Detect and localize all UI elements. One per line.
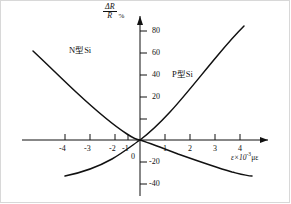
x-tick-label-neg2: -2 [109, 145, 116, 153]
y-tick-label-60: 60 [152, 49, 160, 57]
y-axis-numerator: ΔR [103, 3, 117, 11]
y-axis-title: ΔR R % [103, 3, 124, 21]
y-tick-label-neg20: -20 [149, 158, 160, 166]
x-tick-label-1: 1 [163, 145, 167, 153]
series-curve-n-type [33, 51, 252, 176]
x-tick-label-neg3: -3 [84, 145, 91, 153]
y-axis-denominator: R [105, 12, 114, 20]
x-tick-label-neg4: -4 [59, 145, 66, 153]
arrow-up-icon [137, 16, 143, 25]
axes-group [22, 16, 268, 196]
y-tick-label-40: 40 [152, 71, 160, 79]
arrow-right-icon [260, 137, 268, 143]
y-tick-label-20: 20 [152, 93, 160, 101]
origin-label: 0 [131, 153, 135, 161]
chart-figure: ΔR R % 80 60 40 20 -20 -40 -4 -3 -2 -1 1… [0, 0, 291, 204]
y-axis-fraction: ΔR R [103, 3, 117, 21]
series-label-n-type: N型Si [69, 46, 91, 55]
y-tick-marks [140, 31, 147, 184]
y-tick-label-neg40: -40 [149, 180, 160, 188]
x-tick-label-neg1: -1 [122, 145, 129, 153]
x-axis-title: ε×10-3με [231, 152, 258, 161]
series-label-p-type: P型Si [172, 70, 193, 79]
x-tick-label-2: 2 [188, 145, 192, 153]
y-tick-label-80: 80 [152, 27, 160, 35]
x-axis-title-base: ε×10 [231, 153, 247, 162]
x-axis-title-tail: με [251, 153, 258, 162]
x-tick-marks [65, 134, 240, 140]
chart-plot-area [0, 0, 291, 204]
y-axis-unit: % [119, 12, 125, 21]
x-tick-label-3: 3 [213, 145, 217, 153]
